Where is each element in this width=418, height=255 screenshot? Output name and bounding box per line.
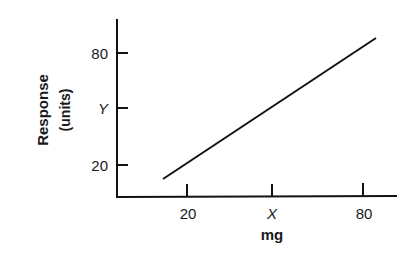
x-axis-title: mg xyxy=(261,226,284,243)
y-axis-title-line1: Response xyxy=(34,74,51,146)
x-tick-label: X xyxy=(266,205,278,222)
dose-response-chart: 80 Y 20 20 X 80 mg Response (units) xyxy=(0,0,418,255)
dose-response-line xyxy=(163,38,376,179)
x-tick-label: 20 xyxy=(180,205,197,222)
x-tick-label: 80 xyxy=(356,205,373,222)
chart-canvas: 80 Y 20 20 X 80 mg Response (units) xyxy=(0,0,418,255)
x-axis xyxy=(116,196,397,197)
y-tick-label: 80 xyxy=(91,45,108,62)
y-tick-label: 20 xyxy=(91,157,108,174)
y-axis-title-line2: (units) xyxy=(57,89,73,132)
y-tick-label: Y xyxy=(98,100,109,117)
y-axis-title: Response (units) xyxy=(34,74,73,146)
